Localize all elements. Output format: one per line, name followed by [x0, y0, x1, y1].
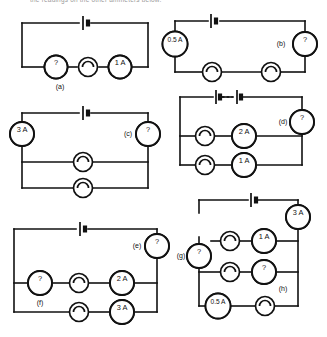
- circuit-c-label: (c): [124, 130, 132, 138]
- meter-d-1a-label: 1 A: [239, 156, 250, 165]
- circuit-ef: ? (e) ? (f) 2 A: [14, 222, 169, 324]
- lamp-bulb-b1: [203, 63, 222, 82]
- meter-gh-05a-label: 0.5 A: [210, 298, 226, 305]
- meter-e-unknown: ?: [145, 234, 169, 258]
- meter-ef-2a: 2 A: [110, 271, 134, 295]
- meter-d-1a: 1 A: [232, 153, 256, 177]
- lamp-bulb-ef2: [70, 303, 89, 322]
- meter-f-unknown-label: ?: [38, 274, 42, 283]
- meter-d-2a-label: 2 A: [239, 127, 250, 136]
- meter-c-unknown-label: ?: [146, 125, 150, 134]
- meter-h-unknown: ?: [252, 260, 276, 284]
- circuit-c: 3 A ? (c): [10, 106, 160, 198]
- meter-c-3a: 3 A: [10, 122, 34, 146]
- meter-d-unknown-label: ?: [300, 113, 304, 122]
- meter-g-unknown-label: ?: [197, 247, 201, 256]
- meter-gh-05a: 0.5 A: [206, 294, 231, 319]
- circuit-b-label: (b): [277, 40, 286, 48]
- circuit-a-label: (a): [56, 83, 65, 91]
- battery-cell-d: [216, 90, 241, 104]
- meter-a-1a: 1 A: [109, 56, 132, 79]
- lamp-bulb-b2: [262, 63, 281, 82]
- lamp-bulb-gh3: [256, 297, 275, 316]
- circuit-gh: 3 A ? (g) 1 A: [177, 193, 310, 319]
- meter-gh-1a-label: 1 A: [259, 232, 270, 241]
- lamp-bulb-gh2: [221, 263, 240, 282]
- circuit-b: 0.5 A ? (b): [163, 14, 318, 82]
- meter-c-unknown: ?: [136, 122, 160, 146]
- battery-cell-a: [83, 16, 88, 30]
- lamp-bulb-d2: [196, 156, 215, 175]
- circuit-h-label: (h): [279, 285, 288, 293]
- meter-f-unknown: ?: [28, 271, 52, 295]
- meter-e-unknown-label: ?: [155, 237, 159, 246]
- battery-cell-b: [211, 14, 216, 28]
- meter-b-05a-label: 0.5 A: [167, 36, 183, 43]
- circuit-f-label: (f): [37, 299, 44, 307]
- meter-a-1a-label: 1 A: [115, 58, 126, 67]
- battery-cell-c: [83, 106, 88, 120]
- lamp-bulb-gh1: [221, 232, 240, 251]
- circuit-d: ? 2 A 1 A: [180, 90, 314, 177]
- meter-b-unknown: ?: [293, 32, 317, 56]
- lamp-bulb-a: [79, 58, 98, 77]
- meter-ef-3a: 3 A: [110, 300, 134, 324]
- meter-a-unknown: ?: [45, 56, 68, 79]
- meter-gh-1a: 1 A: [252, 229, 276, 253]
- meter-ef-3a-label: 3 A: [117, 303, 128, 312]
- meter-g-unknown: ?: [187, 244, 211, 268]
- circuit-e-label: (e): [133, 242, 142, 250]
- battery-cell-gh: [251, 193, 256, 207]
- meter-d-unknown: ?: [290, 110, 314, 134]
- meter-c-3a-label: 3 A: [17, 125, 28, 134]
- meter-b-05a: 0.5 A: [163, 32, 188, 57]
- meter-gh-3a-label: 3 A: [293, 208, 304, 217]
- circuit-g-label: (g): [177, 252, 186, 260]
- lamp-bulb-c1: [74, 153, 93, 172]
- circuit-a: ? 1 A (a): [22, 16, 148, 91]
- battery-cell-ef: [80, 222, 85, 236]
- lamp-bulb-d1: [196, 127, 215, 146]
- worksheet-page: the readings on the other ammeters below…: [0, 0, 327, 337]
- meter-a-unknown-label: ?: [54, 58, 58, 67]
- meter-b-unknown-label: ?: [303, 35, 307, 44]
- meter-h-unknown-label: ?: [262, 263, 266, 272]
- meter-gh-3a: 3 A: [286, 205, 310, 229]
- meter-ef-2a-label: 2 A: [117, 274, 128, 283]
- circuit-diagrams-canvas: ? 1 A (a): [0, 0, 327, 337]
- circuit-d-label: (d): [279, 118, 288, 126]
- lamp-bulb-c2: [74, 179, 93, 198]
- lamp-bulb-ef1: [70, 274, 89, 293]
- meter-d-2a: 2 A: [232, 124, 256, 148]
